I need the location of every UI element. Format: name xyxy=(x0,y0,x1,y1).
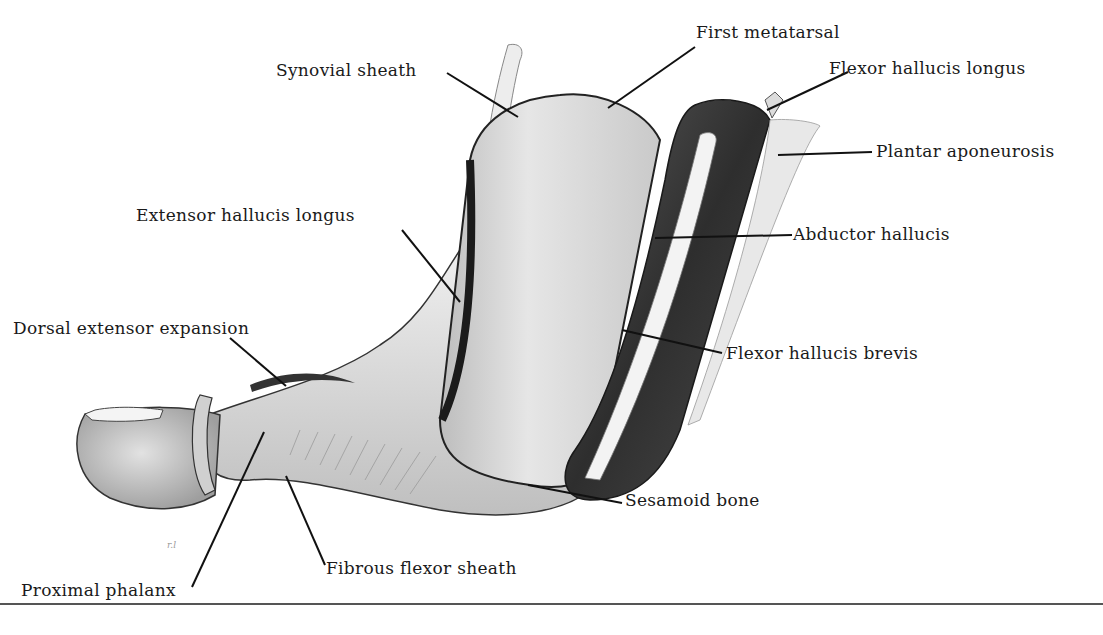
label-sesamoid-bone: Sesamoid bone xyxy=(625,490,760,510)
label-dorsal-extensor-expansion: Dorsal extensor expansion xyxy=(13,318,249,338)
label-first-metatarsal: First metatarsal xyxy=(696,22,840,42)
label-extensor-hallucis-longus: Extensor hallucis longus xyxy=(136,205,355,225)
leader-first-metatarsal xyxy=(608,47,695,108)
distal-phalanx xyxy=(77,395,220,509)
label-fibrous-flexor-sheath: Fibrous flexor sheath xyxy=(326,558,517,578)
label-flexor-hallucis-brevis: Flexor hallucis brevis xyxy=(726,343,918,363)
label-plantar-aponeurosis: Plantar aponeurosis xyxy=(876,141,1055,161)
label-abductor-hallucis: Abductor hallucis xyxy=(793,224,950,244)
label-flexor-hallucis-longus: Flexor hallucis longus xyxy=(829,58,1025,78)
bottom-rule xyxy=(0,603,1103,605)
leader-dorsal-extensor-expansion xyxy=(230,338,286,386)
label-proximal-phalanx: Proximal phalanx xyxy=(21,580,176,600)
leader-fibrous-flexor-sheath xyxy=(286,476,325,565)
artist-signature: r.l xyxy=(167,540,176,550)
anatomy-figure: Synovial sheath First metatarsal Flexor … xyxy=(0,0,1103,635)
label-synovial-sheath: Synovial sheath xyxy=(276,60,417,80)
